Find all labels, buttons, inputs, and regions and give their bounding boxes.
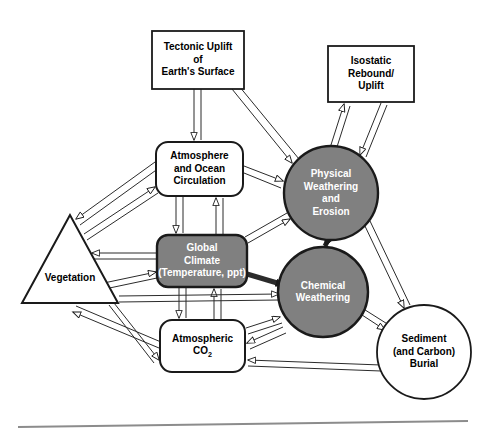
chemical-weathering-circle[interactable] [278, 247, 368, 337]
bottom-divider [18, 421, 468, 427]
edge-climate-to-atmosphere [216, 198, 223, 234]
node-layer [22, 31, 471, 399]
atmospheric-co2-box[interactable] [160, 320, 245, 372]
edge-co2-to-chemical-weathering [246, 317, 282, 334]
edge-isostatic-to-physical-weathering [360, 103, 387, 157]
edge-atmosphere-to-physical-weathering [244, 166, 283, 188]
edge-climate-to-co2 [179, 288, 186, 318]
edge-tectonic-to-atmosphere [194, 89, 201, 140]
edge-vegetation-to-co2 [109, 303, 159, 363]
diagram-vector-layer [0, 0, 484, 436]
diagram-canvas: Tectonic Uplift of Earth's Surface Isost… [0, 0, 484, 436]
edge-climate-to-physical-weathering [245, 213, 290, 243]
edge-climate-to-vegetation [92, 253, 156, 259]
global-climate-box[interactable] [157, 235, 247, 287]
atmosphere-ocean-circulation-box[interactable] [156, 142, 243, 196]
edge-chemical-weathering-to-co2 [247, 327, 286, 349]
edge-sediment-to-co2 [248, 360, 381, 371]
physical-weathering-erosion-circle[interactable] [284, 146, 378, 240]
edge-atmosphere-to-climate [176, 197, 183, 233]
edge-vegetation-to-chemical-weathering [119, 294, 279, 302]
edge-physical-weathering-to-sediment [364, 221, 410, 308]
sediment-carbon-burial-circle[interactable] [377, 305, 471, 399]
edge-co2-to-vegetation [73, 306, 161, 348]
edge-co2-to-climate [214, 289, 221, 319]
tectonic-uplift-box[interactable] [152, 31, 244, 89]
edge-atmosphere-to-vegetation [76, 162, 159, 225]
edge-physical-weathering-to-isostatic [330, 104, 350, 150]
isostatic-rebound-box[interactable] [328, 46, 414, 102]
